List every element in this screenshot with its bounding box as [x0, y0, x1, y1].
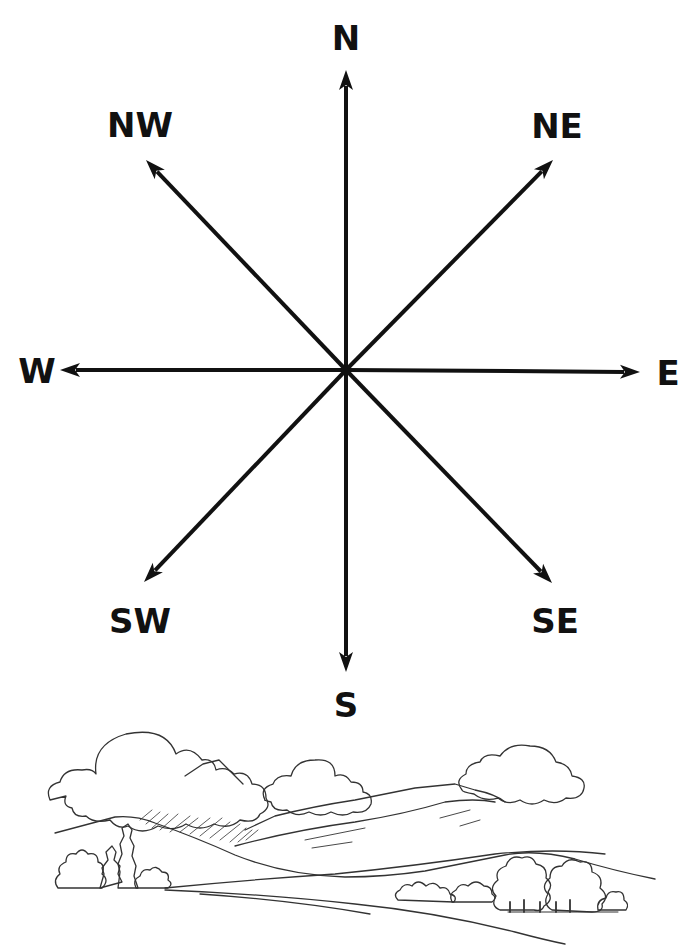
compass-rose-diagram: N NE E SE S SW W NW: [0, 0, 699, 952]
right-trees: [395, 857, 627, 912]
tree-tall: [118, 824, 138, 888]
cloud-right: [459, 745, 584, 804]
tree-right-1: [492, 857, 550, 911]
valley-line: [165, 851, 605, 888]
cloud-left: [48, 732, 268, 831]
tree-right-2: [544, 860, 605, 912]
left-bushes: [55, 824, 171, 888]
landscape-sketch: [0, 0, 699, 952]
mountain-slope: [245, 784, 505, 830]
road-line: [165, 890, 565, 944]
